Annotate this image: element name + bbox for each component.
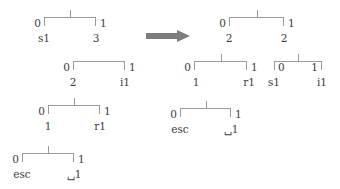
stem-top <box>48 146 49 153</box>
edge-label-left: 0 <box>8 154 19 165</box>
bracket-span <box>44 17 96 18</box>
bracket-span <box>48 105 100 106</box>
child-label-right: 3 <box>82 33 110 44</box>
stem-right <box>73 153 74 162</box>
child-label-left: 1 <box>182 77 210 88</box>
stem-left <box>48 105 49 114</box>
edge-label-right: 1 <box>288 18 295 29</box>
edge-label-left: 0 <box>59 62 70 73</box>
bracket-span <box>73 61 125 62</box>
stem-top <box>257 10 258 17</box>
child-label-right: ␣1 <box>58 169 90 180</box>
stem-left <box>274 61 275 70</box>
edge-label-right: 1 <box>129 62 136 73</box>
stem-right <box>99 105 100 114</box>
bracket-span <box>180 108 231 109</box>
child-label-right: i1 <box>111 77 139 88</box>
edge-label-right: 1 <box>78 154 85 165</box>
edge-label-right: 1 <box>104 106 111 117</box>
transformation-arrow <box>146 30 190 42</box>
bracket-span <box>22 153 74 154</box>
stem-top <box>74 98 75 105</box>
edge-label-left: 0 <box>166 109 177 120</box>
child-label-left: esc <box>164 124 196 135</box>
edge-label-right: 1 <box>307 62 318 73</box>
bracket-span <box>194 61 247 62</box>
child-label-right: 2 <box>270 33 298 44</box>
child-label-right: ␣1 <box>215 124 247 135</box>
arrow-head <box>177 30 190 42</box>
edge-label-right: 1 <box>235 109 242 120</box>
child-label-left: 1 <box>34 121 62 132</box>
stem-right <box>230 108 231 117</box>
child-label-right: r1 <box>86 121 114 132</box>
stem-right <box>283 17 284 26</box>
stem-left <box>73 61 74 70</box>
stem-right <box>321 61 322 70</box>
stem-left <box>44 17 45 26</box>
edge-label-right: 1 <box>251 62 258 73</box>
edge-label-left: 0 <box>278 62 285 73</box>
edge-label-left: 0 <box>30 18 41 29</box>
edge-label-left: 0 <box>215 18 226 29</box>
stem-left <box>22 153 23 162</box>
stem-left <box>180 108 181 117</box>
stem-left <box>194 61 195 70</box>
child-label-left: 2 <box>59 77 87 88</box>
child-label-left: 2 <box>215 33 243 44</box>
arrow-shaft <box>146 33 178 39</box>
child-label-left: esc <box>6 169 38 180</box>
edge-label-right: 1 <box>100 18 107 29</box>
stem-top <box>221 54 222 61</box>
child-label-left: s1 <box>260 77 288 88</box>
stem-right <box>124 61 125 70</box>
stem-right <box>95 17 96 26</box>
child-label-right: i1 <box>308 77 336 88</box>
child-label-right: r1 <box>235 77 263 88</box>
stem-top <box>298 54 299 61</box>
diagram-canvas: 0 1 s1 3 0 1 2 i1 0 1 1 r1 0 1 esc ␣1 <box>0 0 340 189</box>
bracket-span <box>229 17 284 18</box>
stem-top <box>206 101 207 108</box>
edge-label-left: 0 <box>34 106 45 117</box>
edge-label-left: 0 <box>180 62 191 73</box>
child-label-left: s1 <box>30 33 58 44</box>
stem-right <box>246 61 247 70</box>
stem-left <box>229 17 230 26</box>
stem-top <box>70 10 71 17</box>
